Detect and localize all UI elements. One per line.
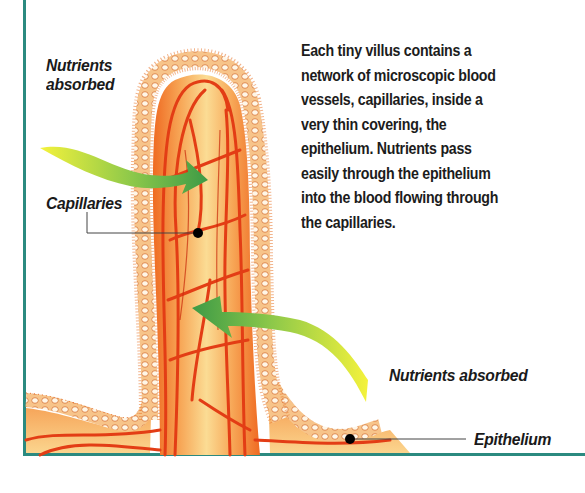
description-line: epithelium. Nutrients pass [301, 136, 559, 161]
description-line: into the blood flowing through [301, 185, 559, 210]
description-line: the capillaries. [301, 210, 559, 235]
label-nutrients-absorbed-top: Nutrients absorbed [46, 56, 114, 94]
label-line: Nutrients [46, 56, 114, 75]
label-capillaries: Capillaries [46, 194, 122, 213]
description-line: easily through the epithelium [301, 161, 559, 186]
description-line: network of microscopic blood [301, 63, 559, 88]
label-line: absorbed [46, 75, 114, 94]
label-nutrients-absorbed-bottom: Nutrients absorbed [389, 366, 527, 385]
description-line: Each tiny villus contains a [301, 38, 559, 63]
label-epithelium: Epithelium [474, 430, 551, 449]
description-line: very thin covering, the [301, 112, 559, 137]
description-text: Each tiny villus contains a network of m… [301, 38, 559, 234]
description-line: vessels, capillaries, inside a [301, 87, 559, 112]
